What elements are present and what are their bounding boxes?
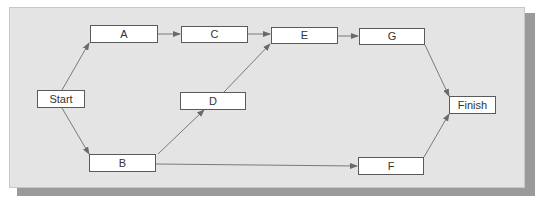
node-f: F xyxy=(358,157,424,175)
edge-b-d xyxy=(158,110,204,154)
edge-g-finish xyxy=(425,45,449,96)
node-d-label: D xyxy=(209,96,217,107)
node-b: B xyxy=(89,154,156,172)
node-finish-label: Finish xyxy=(458,100,487,111)
edge-f-finish xyxy=(424,114,449,157)
node-a: A xyxy=(90,25,158,43)
edge-start-a xyxy=(62,43,89,90)
edge-d-e xyxy=(224,44,270,92)
node-e-label: E xyxy=(301,30,308,41)
node-a-label: A xyxy=(120,29,127,40)
node-g: G xyxy=(359,28,425,45)
node-start-label: Start xyxy=(49,94,72,105)
node-d: D xyxy=(180,92,246,110)
node-e: E xyxy=(271,27,338,44)
edge-b-f xyxy=(156,164,357,166)
node-c: C xyxy=(181,26,248,43)
edge-start-b xyxy=(62,108,89,154)
node-c-label: C xyxy=(211,29,219,40)
node-f-label: F xyxy=(388,161,395,172)
node-finish: Finish xyxy=(449,96,496,114)
node-b-label: B xyxy=(119,158,126,169)
node-g-label: G xyxy=(388,31,397,42)
node-start: Start xyxy=(37,90,85,108)
